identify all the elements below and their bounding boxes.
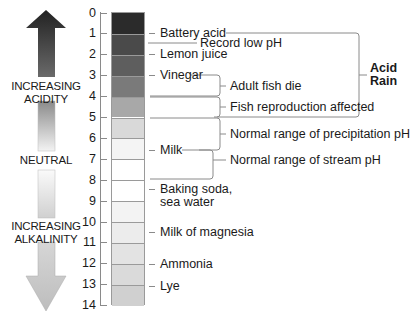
label-ammonia: Ammonia: [160, 258, 213, 271]
tick-label-8: 8: [78, 174, 96, 186]
tick-label-0: 0: [78, 7, 96, 19]
tick-label-13: 13: [78, 278, 96, 290]
tick-mark-10: [100, 222, 107, 223]
ph-segment-6: [112, 138, 144, 159]
acid-rain-line2: Rain: [370, 75, 397, 88]
tick-vinegar: [149, 75, 155, 76]
tick-label-10: 10: [78, 216, 96, 228]
ph-segment-4: [112, 97, 144, 118]
ph-segment-8: [112, 180, 144, 201]
label-acid-rain: Acid Rain: [370, 62, 397, 88]
label-fish-reproduction: Fish reproduction affected: [230, 101, 374, 114]
tick-mark-6: [100, 138, 107, 139]
tick-lye: [149, 286, 155, 287]
tick-mark-14: [100, 305, 107, 306]
ph-segment-5: [112, 118, 144, 139]
tick-lemon: [149, 54, 155, 55]
label-milk: Milk: [160, 144, 182, 157]
tick-label-1: 1: [78, 27, 96, 39]
tick-mark-12: [100, 263, 107, 264]
tick-mark-9: [100, 201, 107, 202]
ph-segment-3: [112, 76, 144, 97]
tick-ammonia: [149, 264, 155, 265]
label-stream-range: Normal range of stream pH: [230, 154, 381, 167]
ph-scale-bar: [111, 12, 145, 305]
label-baking-soda: Baking soda, sea water: [160, 183, 232, 209]
label-adult-fish-die: Adult fish die: [230, 80, 302, 93]
ph-segment-0: [112, 13, 144, 34]
ph-segment-2: [112, 55, 144, 76]
label-milk-of-magnesia: Milk of magnesia: [160, 226, 254, 239]
tick-mark-0: [100, 13, 107, 14]
label-precipitation-range: Normal range of precipitation pH: [230, 128, 410, 141]
ph-segment-9: [112, 201, 144, 222]
tick-label-6: 6: [78, 132, 96, 144]
tick-baking-soda: [149, 189, 155, 190]
tick-label-5: 5: [78, 111, 96, 123]
tick-battery: [149, 33, 155, 34]
tick-label-14: 14: [78, 299, 96, 311]
ph-segment-7: [112, 159, 144, 180]
tick-mark-11: [100, 242, 107, 243]
tick-mark-8: [100, 180, 107, 181]
tick-label-3: 3: [78, 69, 96, 81]
ph-segment-10: [112, 222, 144, 243]
tick-mark-5: [100, 117, 107, 118]
tick-label-12: 12: [78, 257, 96, 269]
tick-label-11: 11: [78, 236, 96, 248]
tick-mark-3: [100, 75, 107, 76]
tick-milk-magnesia: [149, 232, 155, 233]
label-vinegar: Vinegar: [160, 69, 203, 82]
label-lemon-juice: Lemon juice: [160, 48, 227, 61]
tick-label-2: 2: [78, 48, 96, 60]
tick-mark-1: [100, 33, 107, 34]
tick-label-7: 7: [78, 153, 96, 165]
tick-label-4: 4: [78, 90, 96, 102]
ph-segment-12: [112, 264, 144, 285]
ph-segment-13: [112, 285, 144, 306]
tick-label-9: 9: [78, 195, 96, 207]
tick-mark-2: [100, 54, 107, 55]
ph-segment-1: [112, 34, 144, 55]
ph-segment-11: [112, 243, 144, 264]
tick-milk: [149, 150, 155, 151]
tick-mark-7: [100, 159, 107, 160]
baking-soda-line2: sea water: [160, 196, 232, 209]
tick-mark-13: [100, 284, 107, 285]
label-lye: Lye: [160, 280, 180, 293]
tick-mark-4: [100, 96, 107, 97]
